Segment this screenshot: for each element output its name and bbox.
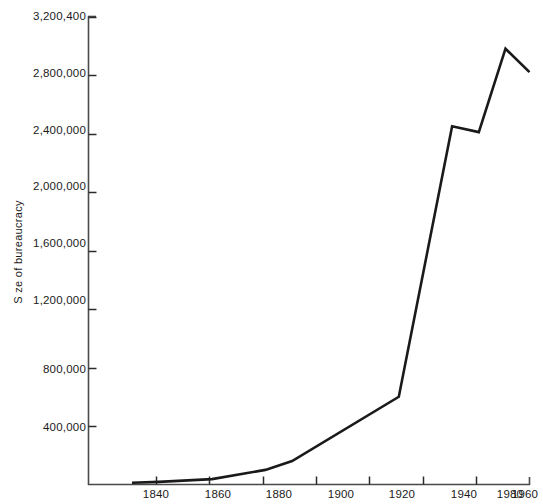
y-tick-marks	[89, 18, 97, 427]
data-line-size-of-bureaucracy	[132, 49, 530, 483]
axis-lines	[88, 16, 530, 485]
